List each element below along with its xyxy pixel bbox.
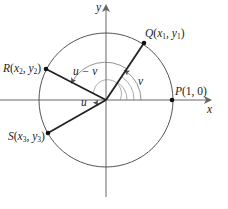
label-R-y-sub: 2 [34,67,38,76]
angle-label-v: v [138,76,143,88]
label-Q: Q(x1, y1) [145,28,184,41]
angle-label-u: u [81,97,87,109]
label-R-name: R [3,62,10,74]
label-Q-x-sub: 1 [162,32,166,41]
point-S [46,131,51,136]
label-R-x-sub: 2 [19,67,23,76]
angle-label-u-minus-v: u − v [73,66,97,78]
label-Q-name: Q [145,27,153,39]
label-P-coords: (1, 0) [182,85,207,97]
segment-OS [48,100,106,133]
point-Q [142,41,147,46]
label-Q-y-sub: 1 [177,32,181,41]
label-S-y-sub: 3 [37,135,41,144]
point-R [44,67,49,72]
unit-circle-diagram: y x Q(x1, y1) R(x2, y2) S(x3, y3) P(1, 0… [0,0,228,209]
label-P-name: P [175,85,182,97]
point-P [170,98,175,103]
label-S: S(x3, y3) [8,131,45,144]
label-S-name: S [8,130,14,142]
label-S-x-sub: 3 [23,135,27,144]
label-R: R(x2, y2) [3,63,41,76]
x-axis-label: x [207,104,212,116]
diagram-graphics [0,0,228,209]
y-axis-label: y [96,2,101,14]
label-P: P(1, 0) [175,86,207,98]
angle-arc-u [96,100,97,104]
